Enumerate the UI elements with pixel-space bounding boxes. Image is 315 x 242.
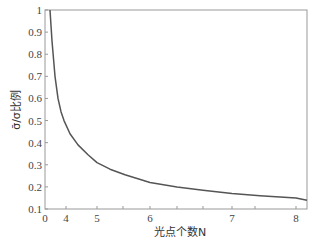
data-series xyxy=(50,10,307,200)
x-tick-label: 8 xyxy=(293,212,299,224)
plot-frame xyxy=(45,10,307,209)
plot-border xyxy=(45,10,307,209)
x-tick-label: 5 xyxy=(94,212,100,224)
y-tick-label: 0.6 xyxy=(28,92,42,104)
y-tick-label: 1 xyxy=(37,4,43,16)
x-axis-title: 光点个数N xyxy=(154,225,206,239)
x-tick-label: 4 xyxy=(63,212,69,224)
x-tick-label: 6 xyxy=(147,212,153,224)
y-tick-label: 0.2 xyxy=(28,181,42,193)
y-tick-label: 0.7 xyxy=(28,70,42,82)
y-tick-label: 0.4 xyxy=(28,137,42,149)
y-tick-label: 0.9 xyxy=(28,26,42,38)
line-chart: 0.10.20.30.40.50.60.70.80.91 045678 σ̄/σ… xyxy=(0,0,315,242)
y-tick-label: 0.5 xyxy=(28,115,42,127)
y-tick-label: 0.8 xyxy=(28,48,42,60)
y-axis-title: σ̄/σ比例 xyxy=(9,90,23,130)
x-tick-label: 7 xyxy=(229,212,235,224)
series-line xyxy=(50,10,307,200)
x-tick-label: 0 xyxy=(42,212,48,224)
y-tick-label: 0.3 xyxy=(28,159,42,171)
y-tick-label: 0.1 xyxy=(28,203,42,215)
